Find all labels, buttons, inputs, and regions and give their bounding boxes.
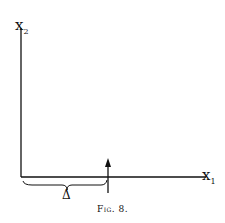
brace-label: Δ bbox=[62, 188, 71, 202]
x-axis-label: x1 bbox=[202, 166, 216, 186]
figure-caption: Fig. 8. bbox=[0, 204, 225, 214]
y-axis-subscript: 2 bbox=[23, 27, 28, 36]
y-axis-label: x2 bbox=[15, 16, 29, 36]
arrow-head-icon bbox=[105, 158, 111, 167]
figure-canvas bbox=[0, 0, 225, 223]
x-axis-subscript: 1 bbox=[210, 177, 215, 186]
